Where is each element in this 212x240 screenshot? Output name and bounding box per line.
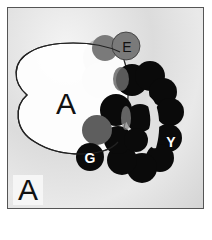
subunit-a-label: A <box>56 87 76 120</box>
subunit-e-label: E <box>122 39 131 55</box>
subunit-g-label: G <box>85 150 96 166</box>
subunit-y-label: Y <box>166 134 176 150</box>
panel-label: A <box>13 175 43 205</box>
